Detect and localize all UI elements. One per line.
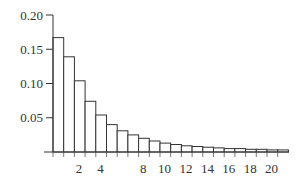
bar: [192, 147, 203, 153]
x-tick-label: 12: [180, 161, 193, 176]
bar-chart: 0.050.100.150.20 248101214161820: [0, 0, 301, 181]
bar: [107, 125, 118, 152]
bar: [160, 143, 171, 152]
bar: [53, 38, 64, 152]
bar: [203, 147, 214, 152]
y-tick-label: 0.20: [20, 8, 43, 23]
y-tick-label: 0.05: [20, 110, 43, 125]
bar: [224, 149, 235, 152]
x-tick-label: 16: [222, 161, 236, 176]
bar: [214, 148, 225, 152]
x-tick-label: 10: [158, 161, 171, 176]
x-tick-label: 20: [265, 161, 278, 176]
x-tick-label: 4: [97, 161, 104, 176]
bar: [117, 131, 128, 152]
y-tick-label: 0.10: [20, 76, 43, 91]
bars: [53, 38, 288, 152]
bar: [85, 101, 96, 152]
x-tick-label: 2: [76, 161, 83, 176]
bar: [171, 145, 182, 153]
bar: [149, 141, 160, 152]
bar: [235, 149, 246, 152]
bar: [64, 57, 75, 152]
x-tick-label: 14: [201, 161, 215, 176]
x-tick-label: 8: [140, 161, 147, 176]
x-tick-label: 18: [244, 161, 257, 176]
bar: [74, 81, 85, 152]
bar: [139, 138, 150, 152]
bar: [128, 135, 139, 152]
bar: [181, 146, 192, 152]
bar: [96, 115, 107, 152]
y-ticks: 0.050.100.150.20: [20, 8, 53, 126]
x-ticks: 248101214161820: [53, 152, 278, 176]
y-tick-label: 0.15: [20, 42, 43, 57]
